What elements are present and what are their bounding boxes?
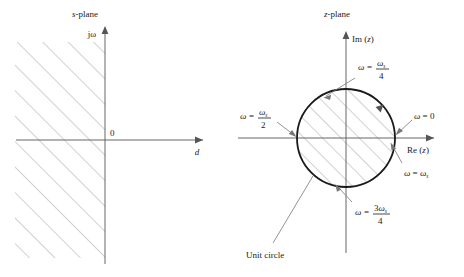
annotation-omega-s-over-4-numerator: ωs	[377, 58, 386, 69]
unit-circle-label: Unit circle	[246, 250, 284, 260]
z-plane-real-axis-label: Re (z)	[407, 145, 429, 155]
annotation-omega-s-over-2-denominator: 2	[261, 120, 266, 130]
annotation-omega-s-over-4-equals: =	[367, 62, 372, 72]
annotation-omega-s-over-2-numerator: ωs	[259, 107, 268, 118]
z-plane-imaginary-axis-label: Im (z)	[352, 34, 374, 44]
s-plane-title: s-plane	[72, 9, 98, 19]
annotation-omega-s-over-2: ω = ωs 2	[240, 107, 297, 137]
annotation-omega-s-over-2-omega: ω	[240, 111, 246, 121]
annotation-omega-3s-over-4-omega: ω	[355, 207, 361, 217]
annotation-omega-s-over-4-omega: ω	[358, 62, 364, 72]
figure-svg: s-plane jω 0 d	[0, 0, 464, 277]
s-plane-imaginary-axis-label: jω	[87, 29, 97, 39]
annotation-omega-3s-over-4-denominator: 4	[378, 216, 383, 226]
s-plane-diagram: s-plane jω 0 d	[15, 9, 203, 264]
s-plane-real-axis-label: d	[195, 147, 200, 157]
annotation-omega-3s-over-4-numerator: 3ωs	[374, 203, 387, 214]
annotation-omega-s-over-4-denominator: 4	[379, 71, 384, 81]
annotation-unit-circle: Unit circle	[246, 176, 313, 260]
s-plane-origin-label: 0	[110, 128, 115, 138]
figure-container: s-plane jω 0 d	[0, 0, 464, 277]
annotation-omega-s-over-2-equals: =	[249, 111, 254, 121]
s-plane-hatched-region	[15, 42, 105, 258]
annotation-omega-3s-over-4: ω = 3ωs 4	[335, 184, 390, 226]
annotation-omega-zero-text: ω = 0	[414, 111, 435, 121]
annotation-omega-s-text: ω = ωs	[404, 168, 428, 179]
annotation-omega-3s-over-4-equals: =	[364, 207, 369, 217]
annotation-omega-zero: ω = 0	[396, 111, 435, 135]
z-plane-title: z-plane	[323, 9, 350, 19]
z-plane-diagram: z-plane Im (z) Re (z) ω = ωs 4	[238, 9, 435, 260]
